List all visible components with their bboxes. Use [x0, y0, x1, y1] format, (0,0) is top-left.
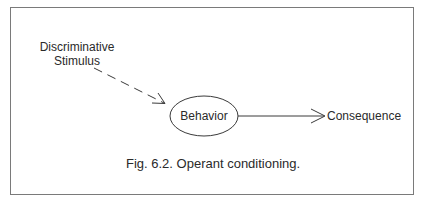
stimulus-label-line1: Discriminative	[22, 40, 132, 54]
stimulus-label-line2: Stimulus	[22, 54, 132, 68]
figure-caption: Fig. 6.2. Operant conditioning.	[126, 156, 300, 171]
stimulus-node: Discriminative Stimulus	[22, 40, 132, 68]
diagram-canvas	[0, 0, 424, 206]
behavior-node-label: Behavior	[170, 109, 238, 123]
consequence-node-label: Consequence	[327, 109, 401, 123]
stimulus-to-behavior-arrow	[94, 68, 164, 103]
